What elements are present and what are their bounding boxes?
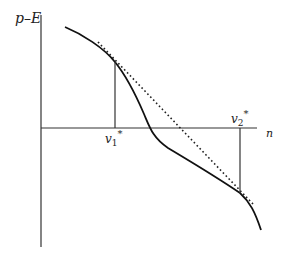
x-axis-label: n <box>266 127 273 140</box>
v2-label: v2* <box>231 108 249 128</box>
y-axis-label: p–E <box>15 10 41 26</box>
phase-diagram: p–E n v1* v2* <box>0 0 285 256</box>
common-tangent-line <box>98 42 253 204</box>
v1-label: v1* <box>105 128 123 148</box>
